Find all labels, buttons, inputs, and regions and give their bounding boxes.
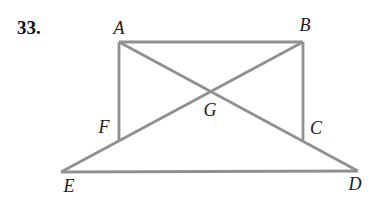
point-label-F: F (99, 118, 110, 136)
point-label-G: G (204, 101, 217, 119)
point-label-B: B (300, 16, 311, 34)
geometry-figure (0, 0, 380, 204)
point-label-C: C (310, 119, 322, 137)
point-label-E: E (64, 177, 75, 195)
worksheet-figure: 33. A B C D E F G (0, 0, 380, 204)
point-label-A: A (114, 19, 125, 37)
point-label-D: D (349, 175, 362, 193)
